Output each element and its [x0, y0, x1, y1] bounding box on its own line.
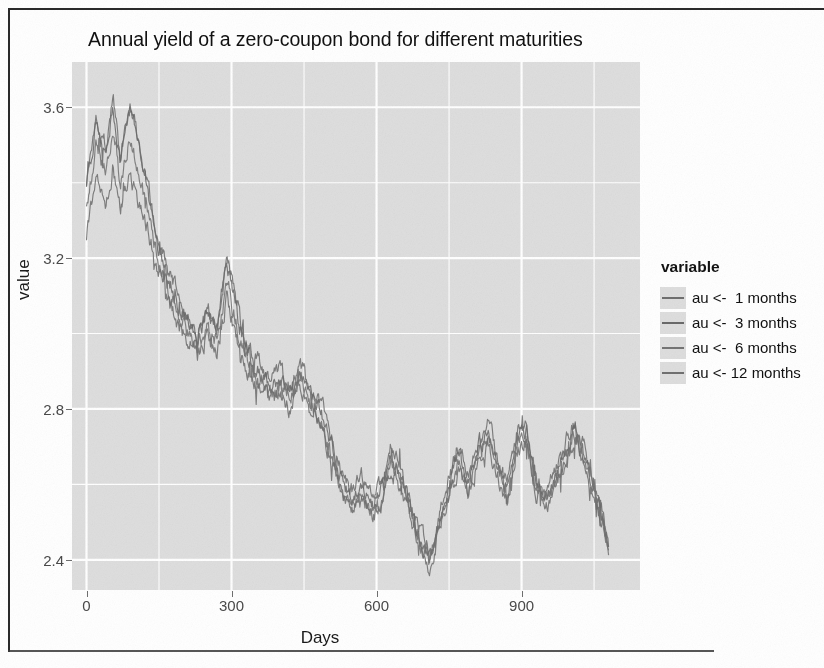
plot-svg: [72, 62, 640, 590]
legend-item[interactable]: au <- 3 months: [660, 310, 818, 335]
data-series-line: [87, 165, 609, 576]
y-axis-tick-label: 3.6: [18, 99, 64, 116]
x-axis-tick-label-group: 0300600900: [0, 597, 824, 621]
legend-item[interactable]: au <- 6 months: [660, 335, 818, 360]
scan-frame-bottom-edge: [8, 650, 714, 652]
scan-frame-top-edge: [8, 8, 824, 10]
plot-panel: [72, 62, 640, 590]
data-series-line: [87, 136, 609, 562]
legend-item[interactable]: au <- 1 months: [660, 285, 818, 310]
legend-item-label: au <- 3 months: [692, 314, 797, 331]
legend-key-line-icon: [662, 297, 684, 299]
y-axis-tick-label: 2.4: [18, 551, 64, 568]
x-axis-tick-mark: [232, 591, 233, 597]
legend-key-swatch: [660, 362, 686, 384]
legend-key-line-icon: [662, 347, 684, 349]
data-series-group: [87, 94, 609, 575]
legend-item[interactable]: au <- 12 months: [660, 360, 818, 385]
y-axis-tick-label-group: 2.42.83.23.6: [18, 0, 64, 668]
x-axis-tick-label: 0: [57, 597, 117, 614]
x-axis-title: Days: [0, 628, 640, 648]
chart-title: Annual yield of a zero-coupon bond for d…: [88, 28, 583, 51]
legend-key-line-icon: [662, 322, 684, 324]
x-axis-tick-label: 300: [202, 597, 262, 614]
y-axis-tick-label: 3.2: [18, 250, 64, 267]
legend-key-swatch: [660, 312, 686, 334]
x-axis-tick-label: 900: [492, 597, 552, 614]
legend-item-group: au <- 1 monthsau <- 3 monthsau <- 6 mont…: [660, 285, 818, 385]
x-axis-tick-mark: [522, 591, 523, 597]
gridlines: [72, 62, 640, 590]
x-axis-tick-mark: [87, 591, 88, 597]
y-axis-tick-label: 2.8: [18, 400, 64, 417]
legend: variable au <- 1 monthsau <- 3 monthsau …: [660, 258, 818, 385]
legend-title: variable: [660, 258, 818, 276]
data-series-line: [87, 94, 609, 564]
x-axis-tick-label: 600: [347, 597, 407, 614]
legend-item-label: au <- 12 months: [692, 364, 801, 381]
legend-key-swatch: [660, 337, 686, 359]
legend-item-label: au <- 1 months: [692, 289, 797, 306]
figure-root: Annual yield of a zero-coupon bond for d…: [0, 0, 824, 668]
data-series-line: [87, 108, 609, 556]
legend-key-line-icon: [662, 372, 684, 374]
legend-key-swatch: [660, 287, 686, 309]
legend-item-label: au <- 6 months: [692, 339, 797, 356]
x-axis-tick-mark: [377, 591, 378, 597]
